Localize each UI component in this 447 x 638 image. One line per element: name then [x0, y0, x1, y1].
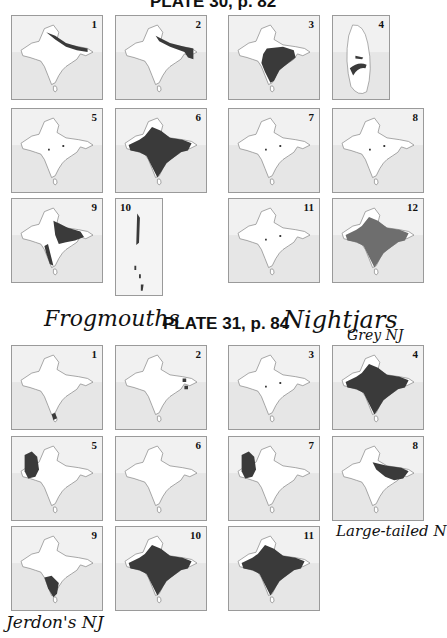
map-graphic	[116, 437, 206, 520]
map-tile: 8	[332, 108, 424, 193]
map-tile: 5	[11, 436, 103, 521]
map-tile: 7	[228, 108, 320, 193]
map-graphic	[333, 437, 423, 520]
handwritten-grey-nj: Grey NJ	[347, 327, 403, 343]
handwritten-large-tailed: Large-tailed N	[336, 522, 447, 540]
handwritten-frogmouths: Frogmouths	[44, 306, 180, 331]
map-tile: 6	[115, 436, 207, 521]
map-graphic	[12, 346, 102, 429]
map-graphic	[116, 199, 162, 295]
map-graphic	[229, 346, 319, 429]
map-graphic	[333, 346, 423, 429]
map-tile: 7	[228, 436, 320, 521]
map-tile: 2	[115, 345, 207, 430]
map-graphic	[229, 437, 319, 520]
map-tile: 6	[115, 108, 207, 193]
map-tile: 10	[115, 198, 163, 296]
plate-30-title: PLATE 30, p. 82	[150, 0, 276, 12]
map-tile: 9	[11, 526, 103, 611]
map-tile: 2	[115, 15, 207, 100]
map-tile: 9	[11, 198, 103, 283]
map-graphic	[116, 346, 206, 429]
map-graphic	[116, 109, 206, 192]
map-graphic	[12, 527, 102, 610]
map-tile: 1	[11, 15, 103, 100]
map-graphic	[116, 16, 206, 99]
map-tile: 10	[115, 526, 207, 611]
handwritten-jerdons-nj: Jerdon's NJ	[6, 612, 104, 632]
map-graphic	[333, 109, 423, 192]
map-tile: 3	[228, 345, 320, 430]
map-tile: 3	[228, 15, 320, 100]
map-tile: 4	[332, 345, 424, 430]
map-graphic	[12, 437, 102, 520]
map-tile: 5	[11, 108, 103, 193]
plate-31-title: PLATE 31, p. 84	[163, 314, 289, 334]
map-tile: 12	[332, 198, 424, 283]
map-tile: 4	[332, 15, 390, 100]
map-graphic	[12, 109, 102, 192]
map-graphic	[229, 109, 319, 192]
map-graphic	[12, 16, 102, 99]
map-tile: 11	[228, 198, 320, 283]
map-graphic	[229, 16, 319, 99]
map-tile: 8	[332, 436, 424, 521]
map-tile: 11	[228, 526, 320, 611]
map-graphic	[12, 199, 102, 282]
map-tile: 1	[11, 345, 103, 430]
